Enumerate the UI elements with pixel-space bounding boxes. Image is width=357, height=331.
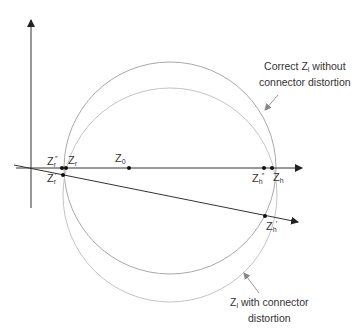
label-zr-double-prime: Zr″ [47, 155, 58, 168]
point-z0 [127, 166, 131, 170]
point-zh-double-prime [262, 166, 266, 170]
label-zh-prime: Zh′ [266, 220, 277, 233]
caption-correct: Correct Zl without connector distortion [259, 60, 351, 89]
label-zr: Zr [68, 155, 77, 167]
correct-annotation-arrow [265, 95, 278, 110]
point-zh-prime [263, 214, 267, 218]
label-zh-double-prime: Zh″ [252, 172, 264, 185]
caption-distorted: Zl with connector distortion [230, 296, 309, 325]
distorted-annotation-arrow [244, 273, 259, 293]
distorted-impedance-circle [63, 88, 277, 302]
point-zh [270, 166, 274, 170]
point-zr-prime [61, 173, 65, 177]
label-z0: Z0 [115, 153, 126, 165]
point-zr-double-prime [60, 166, 64, 170]
label-zr-prime: Zr′ [47, 172, 56, 185]
label-zh: Zh [273, 172, 284, 184]
